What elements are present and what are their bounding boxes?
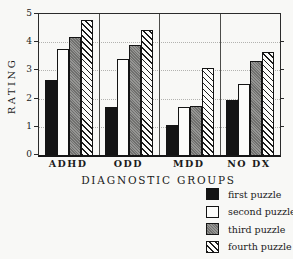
y-axis-title: RATING: [6, 58, 17, 115]
y-tick-label-5: 5: [26, 9, 32, 18]
category-panels: [39, 14, 280, 155]
bar-mdd-first-puzzle: [166, 125, 178, 155]
legend-item-second-puzzle: second puzzle: [206, 206, 293, 219]
y-tickmark-left-4: [34, 41, 38, 42]
y-tickmark-right-1: [280, 126, 284, 127]
x-axis-title: DIAGNOSTIC GROUPS: [38, 174, 279, 186]
y-tickmark-right-3: [280, 69, 284, 70]
panel-mdd: [160, 14, 221, 155]
white-outline-swatch-icon: [206, 206, 219, 218]
bar-no-dx-second-puzzle: [238, 84, 250, 155]
figure: RATING 012345 ADHDODDMDDNO DX DIAGNOSTIC…: [0, 0, 293, 259]
y-axis-tick-labels: 012345: [16, 13, 32, 154]
legend-item-fourth-puzzle: fourth puzzle: [206, 241, 293, 254]
y-tick-label-4: 4: [26, 37, 32, 46]
y-tick-label-1: 1: [26, 121, 32, 130]
legend-item-first-puzzle: first puzzle: [206, 188, 293, 201]
bar-odd-third-puzzle: [129, 45, 141, 155]
y-tick-label-2: 2: [26, 93, 32, 102]
bar-odd-fourth-puzzle: [141, 30, 153, 155]
solid-black-swatch-icon: [206, 188, 219, 200]
y-tick-label-0: 0: [26, 150, 32, 159]
panel-no-dx: [221, 14, 281, 155]
bar-adhd-first-puzzle: [45, 80, 57, 155]
y-tickmark-right-2: [280, 98, 284, 99]
y-tickmark-left-1: [34, 126, 38, 127]
bar-adhd-third-puzzle: [69, 37, 81, 155]
bar-mdd-fourth-puzzle: [202, 68, 214, 155]
x-tick-label-no-dx: NO DX: [219, 158, 279, 169]
legend: first puzzlesecond puzzlethird puzzlefou…: [206, 188, 293, 258]
bar-no-dx-first-puzzle: [226, 100, 238, 155]
panel-odd: [100, 14, 161, 155]
diagonal-hatch-swatch-icon: [206, 241, 219, 253]
bar-no-dx-third-puzzle: [250, 61, 262, 155]
legend-item-third-puzzle: third puzzle: [206, 223, 293, 236]
x-tick-label-odd: ODD: [98, 158, 158, 169]
y-tickmark-left-3: [34, 69, 38, 70]
bar-no-dx-fourth-puzzle: [262, 52, 274, 155]
x-tick-label-adhd: ADHD: [38, 158, 98, 169]
x-axis-category-labels: ADHDODDMDDNO DX: [38, 158, 279, 169]
bar-odd-second-puzzle: [117, 59, 129, 155]
y-tickmark-left-2: [34, 98, 38, 99]
panel-adhd: [39, 14, 100, 155]
y-tick-label-3: 3: [26, 65, 32, 74]
legend-label: third puzzle: [228, 224, 286, 235]
halftone-gray-swatch-icon: [206, 223, 219, 235]
bar-adhd-second-puzzle: [57, 49, 69, 155]
y-tickmark-left-0: [34, 154, 38, 155]
plot-area: [38, 13, 281, 157]
y-tickmark-right-4: [280, 41, 284, 42]
bar-adhd-fourth-puzzle: [81, 20, 93, 155]
bar-odd-first-puzzle: [105, 107, 117, 155]
x-tick-label-mdd: MDD: [159, 158, 219, 169]
bar-mdd-second-puzzle: [178, 107, 190, 155]
bar-mdd-third-puzzle: [190, 106, 202, 155]
legend-label: second puzzle: [228, 206, 293, 217]
legend-label: first puzzle: [228, 189, 281, 200]
y-tickmark-left-5: [34, 13, 38, 14]
legend-label: fourth puzzle: [228, 241, 292, 252]
